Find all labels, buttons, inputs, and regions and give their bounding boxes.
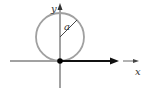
y-axis-arrowhead-icon xyxy=(58,3,63,10)
y-axis-label: y xyxy=(50,3,57,14)
x-axis-label: x xyxy=(135,66,141,77)
radius-label: a xyxy=(64,21,70,32)
diagram-svg: y a x xyxy=(0,0,153,90)
diagram-canvas: y a x xyxy=(0,0,153,90)
velocity-arrowhead-icon xyxy=(110,58,119,65)
x-axis-arrowhead-icon xyxy=(133,59,139,63)
origin-point xyxy=(57,58,63,64)
